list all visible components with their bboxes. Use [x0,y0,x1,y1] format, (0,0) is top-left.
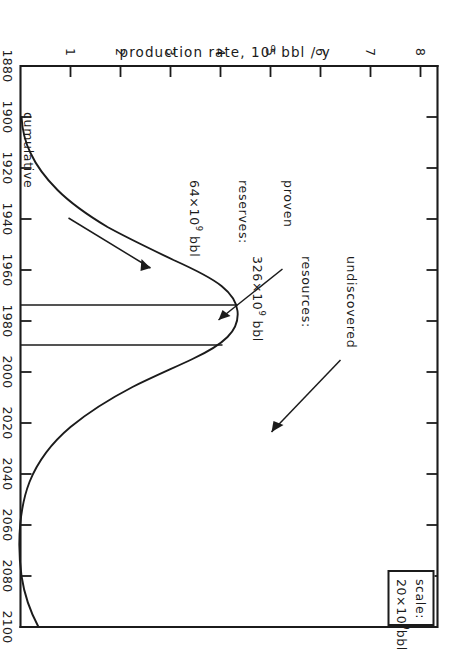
y-axis-title-prefix: production rate, 10 [119,44,270,60]
x-tick-label-1880: 1880 [0,49,14,82]
x-tick-label-1960: 1960 [0,253,14,286]
leader-undiscovered-resources [271,360,340,432]
leader-cumulative-production [68,218,150,271]
y-axis-title-exponent: 9 [270,44,275,54]
annotation-cumulative-production: cumulative production: 120×109 bbl [0,112,65,198]
annotation-proven-reserves-value: 64×10 [187,180,202,226]
annotation-proven-reserves: proven reserves: 64×109 bbl [157,180,325,257]
x-tick-label-2020: 2020 [0,406,14,439]
x-tick-label-1980: 1980 [0,304,14,337]
annotation-cumulative-production-line1: cumulative [20,112,35,198]
annotation-proven-reserves-line3: 64×109 bbl [187,180,205,257]
y-axis-title-suffix: bbl / y [275,44,330,60]
scale-legend-unit: bbl [394,630,409,651]
scale-legend-box: scale: 20×109bbl [387,570,434,626]
scale-legend-value: 20×10 [394,579,409,624]
annotation-proven-reserves-unit: bbl [187,231,202,257]
x-tick-label-2040: 2040 [0,457,14,490]
scale-legend-line2: 20×109bbl [394,579,412,617]
annotation-undiscovered-resources: undiscovered resources: 326×109 bbl [220,256,388,348]
x-tick-label-2100: 2100 [0,610,14,643]
y-axis-title: production rate, 109 bbl / y [95,44,355,61]
annotation-undiscovered-resources-unit: bbl [250,316,265,342]
x-tick-label-2060: 2060 [0,508,14,541]
x-axis-ticks-top [426,117,437,576]
y-tick-label-1: 1 [62,48,77,56]
y-axis-ticks [70,66,420,77]
annotation-undiscovered-resources-value: 326×10 [250,256,265,310]
annotation-undiscovered-resources-line1: undiscovered [343,256,358,348]
annotation-proven-reserves-line2: reserves: [235,180,250,257]
x-tick-label-2080: 2080 [0,559,14,592]
scale-legend-line1: scale: [412,579,427,617]
annotation-proven-reserves-line1: proven [280,180,295,257]
annotation-undiscovered-resources-line2: resources: [298,256,313,348]
y-tick-label-7: 7 [362,48,377,56]
x-tick-label-2000: 2000 [0,355,14,388]
x-tick-label-1940: 1940 [0,202,14,235]
y-tick-label-8: 8 [412,48,427,56]
annotation-undiscovered-resources-line3: 326×109 bbl [250,256,268,348]
